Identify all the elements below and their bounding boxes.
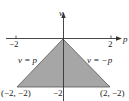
region-diagram: v p −2 2 −2 v = p v = −p (−2, −2) (2, −2…	[0, 0, 129, 101]
v-axis-label: v	[59, 8, 63, 18]
tick-label-p-neg2: −2	[9, 39, 19, 49]
right-boundary-label: v = −p	[87, 55, 113, 65]
vertex-label-bottom-left: (−2, −2)	[1, 88, 31, 98]
tick-label-v-neg2: −2	[53, 88, 63, 98]
p-axis-label: p	[122, 34, 128, 44]
left-boundary-label: v = p	[18, 55, 38, 65]
tick-label-p-2: 2	[108, 39, 113, 49]
vertex-label-bottom-right: (2, −2)	[100, 88, 125, 98]
p-axis-arrow-icon	[116, 36, 122, 40]
